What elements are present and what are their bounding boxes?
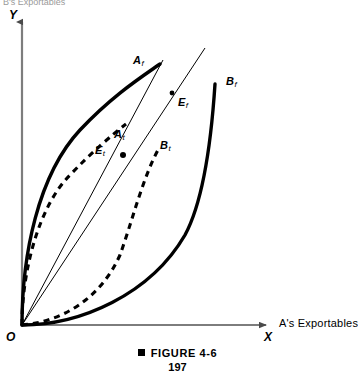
equilibrium-label-tariff-sub: t bbox=[103, 149, 105, 158]
figure-caption-line: FIGURE 4-6 bbox=[0, 347, 355, 359]
equilibrium-label-free: Ef bbox=[178, 97, 188, 108]
curve-label-b-free: Bf bbox=[226, 76, 236, 87]
curve-label-b-free-sub: f bbox=[234, 80, 236, 89]
x-axis-variable-label: X bbox=[264, 331, 272, 343]
point-equilibrium-tariff bbox=[120, 152, 126, 158]
page-number: 197 bbox=[0, 361, 355, 373]
equilibrium-label-free-base: E bbox=[178, 96, 185, 108]
curve-label-b-tariff: Bt bbox=[160, 140, 170, 151]
curve-label-a-free-sub: f bbox=[141, 59, 143, 68]
curve-label-a-tariff: At bbox=[114, 129, 124, 140]
x-axis-title: A's Exportables bbox=[279, 318, 358, 329]
caption-bullet-icon bbox=[138, 349, 145, 356]
curve-label-a-tariff-sub: t bbox=[122, 133, 124, 142]
axis-group bbox=[22, 22, 266, 325]
equilibrium-label-tariff: Et bbox=[95, 145, 105, 156]
point-equilibrium-free bbox=[170, 91, 175, 96]
terms-of-trade-rays bbox=[22, 48, 205, 325]
figure-caption-block: FIGURE 4-6 197 bbox=[0, 347, 355, 373]
curve-label-b-tariff-sub: t bbox=[168, 144, 170, 153]
curve-label-a-free: Af bbox=[133, 55, 143, 66]
equilibrium-label-tariff-base: E bbox=[95, 144, 102, 156]
curve-label-b-tariff-base: B bbox=[160, 139, 168, 151]
curve-label-a-tariff-base: A bbox=[114, 128, 122, 140]
y-axis-variable-label: Y bbox=[9, 9, 17, 21]
origin-label: O bbox=[6, 331, 15, 343]
tot-ray-free-trade bbox=[22, 48, 205, 325]
curve-b-free bbox=[22, 84, 215, 325]
curve-label-a-free-base: A bbox=[133, 54, 141, 66]
curve-b-tariff bbox=[22, 150, 158, 325]
curve-label-b-free-base: B bbox=[226, 75, 234, 87]
figure-caption-text: FIGURE 4-6 bbox=[151, 347, 218, 359]
equilibrium-label-free-sub: f bbox=[186, 101, 188, 110]
